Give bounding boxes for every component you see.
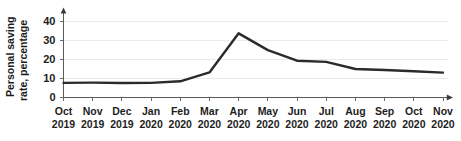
x-tick-label-year: 2020 [139,118,163,130]
x-tick-label-month: Oct [405,105,423,117]
x-axis-arrow-icon [447,95,453,101]
x-tick-label-year: 2020 [169,118,193,130]
x-tick-label-year: 2019 [81,118,105,130]
x-tick-label-month: May [258,105,279,117]
x-tick-label-month: Nov [83,105,103,117]
y-tick-label: 0 [49,91,55,103]
y-tick-labels: 010203040 [43,15,55,103]
x-tick-label-year: 2020 [227,118,251,130]
x-tick-label-month: Feb [171,105,190,117]
x-tick-label-year: 2020 [285,118,309,130]
y-tick-label: 10 [43,72,55,84]
x-tick-label-year: 2020 [198,118,222,130]
y-axis-title-line-2: rate, percentage [17,20,29,101]
x-tick-label-month: Aug [345,105,365,117]
y-axis-title: Personal saving rate, percentage [4,16,29,101]
x-tick-label-year: 2019 [52,118,76,130]
chart-canvas: Personal saving rate, percentage 0102030… [0,0,461,141]
x-tick-label-month: Sep [375,105,394,117]
y-tick-label: 20 [43,53,55,65]
x-tick-label-month: Nov [433,105,453,117]
x-tick-label-year: 2020 [431,118,455,130]
x-tick-label-year: 2020 [402,118,426,130]
y-tick-label: 30 [43,34,55,46]
x-tick-label-month: Oct [55,105,73,117]
x-tick-label-month: Apr [230,105,248,117]
x-tick-label-year: 2020 [344,118,368,130]
x-tick-label-month: Jul [319,105,334,117]
x-tick-label-year: 2019 [110,118,134,130]
y-tick-label: 40 [43,15,55,27]
personal-saving-rate-chart: Personal saving rate, percentage 0102030… [0,0,461,141]
y-axis-arrow-icon [61,8,67,14]
y-axis-title-line-1: Personal saving [4,16,16,97]
x-tick-label-month: Jun [288,105,307,117]
x-tick-label-year: 2020 [315,118,339,130]
x-tick-label-year: 2020 [256,118,280,130]
x-tick-label-year: 2020 [373,118,397,130]
x-tick-label-month: Dec [112,105,131,117]
x-tick-label-month: Mar [200,105,219,117]
x-tick-label-month: Jan [142,105,160,117]
x-tick-labels: Oct2019Nov2019Dec2019Jan2020Feb2020Mar20… [52,105,455,130]
